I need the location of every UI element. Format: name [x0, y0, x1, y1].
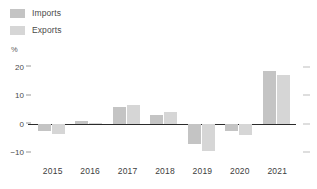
legend-label-imports: Imports [32, 8, 61, 18]
plot-area: 20100−10 [34, 58, 296, 161]
legend-swatch-icon [10, 26, 25, 35]
x-axis-labels: 2015201620172018201920202021 [34, 166, 296, 180]
bar-group [109, 58, 146, 161]
y-axis-tick-label: 20 [15, 62, 34, 71]
y-axis-tick-label: 0 [20, 119, 34, 128]
bar-imports-2018 [150, 115, 163, 124]
x-axis-label-2015: 2015 [43, 166, 63, 176]
bar-exports-2016 [89, 123, 102, 124]
y-axis-tick-label: 10 [15, 91, 34, 100]
bar-imports-2015 [38, 124, 51, 131]
x-axis-label-2018: 2018 [155, 166, 175, 176]
bar-exports-2017 [127, 105, 140, 124]
x-axis-label-2017: 2017 [118, 166, 138, 176]
y-axis-tick-right [303, 123, 310, 124]
y-axis-tick-right [303, 95, 310, 96]
chart-legend: Imports Exports [10, 6, 62, 40]
bar-imports-2021 [263, 71, 276, 124]
bar-group [221, 58, 258, 161]
legend-item-imports: Imports [10, 6, 62, 20]
y-axis-tick-label: −10 [10, 148, 34, 157]
bar-group [71, 58, 108, 161]
bar-exports-2020 [239, 124, 252, 135]
y-axis-tick-right [303, 152, 310, 153]
x-axis-label-2021: 2021 [267, 166, 287, 176]
bar-imports-2020 [225, 124, 238, 131]
x-axis-label-2019: 2019 [193, 166, 213, 176]
bar-group [34, 58, 71, 161]
bar-group [146, 58, 183, 161]
bar-imports-2019 [188, 124, 201, 144]
y-axis-unit-label: % [11, 45, 18, 54]
x-axis-label-2020: 2020 [230, 166, 250, 176]
x-axis-label-2016: 2016 [80, 166, 100, 176]
y-axis-tick-right [303, 66, 310, 67]
bar-imports-2017 [113, 107, 126, 124]
bar-group [184, 58, 221, 161]
legend-swatch-icon [10, 9, 25, 18]
bar-exports-2021 [277, 75, 290, 124]
bar-exports-2015 [52, 124, 65, 134]
bar-imports-2016 [75, 121, 88, 124]
legend-item-exports: Exports [10, 23, 62, 37]
bar-chart: Imports Exports % 20100−10 2015201620172… [0, 0, 317, 189]
bar-exports-2019 [202, 124, 215, 151]
legend-label-exports: Exports [32, 25, 62, 35]
bar-group [259, 58, 296, 161]
bar-exports-2018 [164, 112, 177, 123]
